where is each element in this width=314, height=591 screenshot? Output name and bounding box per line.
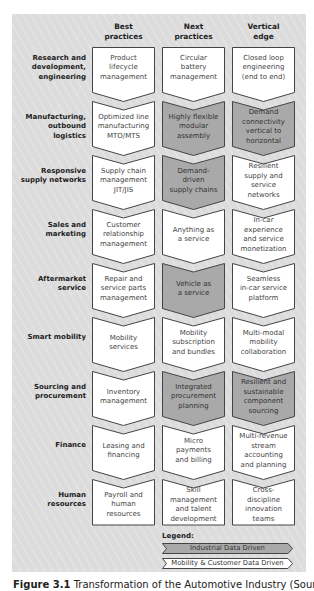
cell-text-line: manufacturing — [98, 122, 149, 132]
cell-text-block: Mobilityservices — [109, 334, 138, 353]
cell-text: Productlifecyclemanagement — [94, 49, 153, 87]
legend-label: Mobility & Customer Data Driven — [162, 558, 293, 569]
chevron-cell-industrial: Vehicle asa service — [162, 263, 225, 318]
cell-text-line: planning — [171, 402, 216, 412]
cell-text-block: Repair andservice partsmanagement — [100, 275, 147, 304]
cell-text-block: Cross-disciplineinnovationteams — [245, 486, 282, 524]
chevron-cell-mobility: Cross-disciplineinnovationteams — [232, 479, 295, 534]
cell-text-line: Circular — [170, 54, 217, 64]
cell-text: Inventorymanagement — [94, 378, 153, 416]
chevron-cell-mobility: In-carexperienceand servicemonetization — [232, 209, 295, 264]
cell-text-block: Skillmanagementand talentdevelopment — [170, 486, 217, 524]
cell-text: Demand-drivensupply chains — [164, 162, 223, 200]
cell-text-line: stream — [239, 442, 287, 452]
cell-text-line: Closed loop — [242, 54, 285, 64]
cell-text-line: Resilient — [244, 162, 282, 172]
row-label-line: Research and — [14, 54, 86, 64]
cell-text-line: Customer — [100, 221, 147, 231]
chevron-cell-mobility: Repair andservice partsmanagement — [92, 263, 155, 318]
row-label: Research anddevelopment,engineering — [14, 54, 86, 83]
cell-text-block: Supply chainmanagementJIT/JIS — [100, 167, 147, 196]
cell-text-line: Payroll and — [104, 491, 143, 501]
cell-text-line: management — [100, 73, 147, 83]
column-header: Bestpractices — [92, 22, 155, 42]
cell-text-line: development — [170, 515, 217, 525]
cell-text-line: discipline — [245, 496, 282, 506]
chevron-cell-mobility: Multi-revenuestreamaccountingand plannin… — [232, 425, 295, 480]
cell-text-line: monetization — [241, 245, 287, 255]
row-label: Manufacturing,outbound logistics — [14, 113, 86, 142]
cell-text: Cross-disciplineinnovationteams — [234, 486, 293, 524]
cell-text-line: Highly flexible — [169, 113, 219, 123]
cell-text-line: driven — [170, 176, 218, 186]
cell-text-line: JIT/JIS — [100, 186, 147, 196]
cell-text: Multi-modalmobilitycollaboration — [234, 324, 293, 362]
cell-text-line: financing — [102, 451, 144, 461]
cell-text-block: Mobilitysubscriptionand bundles — [172, 329, 215, 358]
cell-text-line: mobility — [241, 338, 287, 348]
cell-text-line: management — [100, 176, 147, 186]
row-label-line: Finance — [14, 441, 86, 451]
cell-text-block: Resilientsupply andservicenetworks — [244, 162, 282, 200]
cell-text: Demandconnectivityvertical tohorizontal — [234, 108, 293, 146]
cell-text-line: Product — [100, 54, 147, 64]
column-header-line: Best — [92, 22, 155, 32]
cell-text: Resilientsupply andservicenetworks — [234, 162, 293, 200]
cell-text-line: Demand- — [170, 167, 218, 177]
chevron-cell-mobility: Supply chainmanagementJIT/JIS — [92, 155, 155, 210]
row-label-line: Smart mobility — [14, 333, 86, 343]
cell-text-line: connectivity — [242, 118, 285, 128]
cell-text-line: Mobility — [172, 329, 215, 339]
cell-text-line: and talent — [170, 505, 217, 515]
cell-text-line: component — [241, 397, 286, 407]
cell-text: Mobilitysubscriptionand bundles — [164, 324, 223, 362]
cell-text-line: management — [100, 397, 147, 407]
cell-text-block: In-carexperienceand servicemonetization — [241, 216, 287, 254]
chevron-cell-industrial: Highly flexiblemodularassembly — [162, 101, 225, 156]
row-label: Sourcing andprocurement — [14, 383, 86, 402]
cell-text-line: battery — [170, 63, 217, 73]
cell-text-line: Supply chain — [100, 167, 147, 177]
cell-text-line: In-car — [241, 216, 287, 226]
cell-text-line: accounting — [239, 451, 287, 461]
cell-text-line: Micro — [175, 437, 212, 447]
cell-text: Micropaymentsand billing — [164, 432, 223, 470]
row-label-line: development, — [14, 63, 86, 73]
cell-text-line: modular — [169, 122, 219, 132]
legend-title: Legend: — [162, 532, 194, 540]
cell-text-line: service parts — [100, 284, 147, 294]
cell-text-line: supply chains — [170, 186, 218, 196]
chevron-cell-mobility: Payroll andhumanresources — [92, 479, 155, 534]
cell-text-line: vertical to — [242, 127, 285, 137]
cell-text-line: sustainable — [241, 388, 286, 398]
chevron-cell-mobility: Multi-modalmobilitycollaboration — [232, 317, 295, 372]
cell-text: Vehicle asa service — [164, 270, 223, 308]
cell-text-block: Demandconnectivityvertical tohorizontal — [242, 108, 285, 146]
cell-text-block: Micropaymentsand billing — [175, 437, 212, 466]
cell-text-line: services — [109, 343, 138, 353]
chevron-cell-industrial: Demand-drivensupply chains — [162, 155, 225, 210]
legend-label: Industrial Data Driven — [162, 543, 293, 554]
cell-text-line: management — [170, 73, 217, 83]
cell-text-block: Resilient andsustainablecomponentsourcin… — [241, 378, 286, 416]
row-label-line: supply networks — [14, 176, 86, 186]
cell-text-line: service — [244, 181, 282, 191]
cell-text-block: Customerrelationshipmanagement — [100, 221, 147, 250]
chevron-cell-industrial: Demandconnectivityvertical tohorizontal — [232, 101, 295, 156]
cell-text-line: (end to end) — [242, 73, 285, 83]
cell-text-block: Highly flexiblemodularassembly — [169, 113, 219, 142]
cell-text-line: collaboration — [241, 348, 287, 358]
cell-text-line: in-car service — [240, 284, 287, 294]
cell-text-line: Demand — [242, 108, 285, 118]
cell-text-block: Vehicle asa service — [176, 280, 211, 299]
cell-text: Optimized linemanufacturingMTO/MTS — [94, 108, 153, 146]
cell-text: In-carexperienceand servicemonetization — [234, 216, 293, 254]
chevron-cell-mobility: Micropaymentsand billing — [162, 425, 225, 480]
cell-text-line: management — [170, 496, 217, 506]
cell-text: Multi-revenuestreamaccountingand plannin… — [234, 432, 293, 470]
chevron-cell-mobility: Seamlessin-car serviceplatform — [232, 263, 295, 318]
cell-text-line: Mobility — [109, 334, 138, 344]
legend-item-industrial: Industrial Data Driven — [162, 543, 293, 554]
cell-text-block: Leasing andfinancing — [102, 442, 144, 461]
row-label: Smart mobility — [14, 333, 86, 343]
